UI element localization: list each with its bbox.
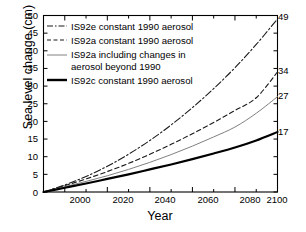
sea-level-change-chart: Sea level change (cm) 50 45 40 35 30 25 …: [0, 0, 306, 232]
legend-line-swatches: [47, 26, 67, 80]
curve-1: [44, 72, 278, 192]
axes-frame: [44, 16, 278, 193]
axis-ticks: [44, 16, 278, 193]
plot-area: [0, 0, 306, 232]
data-curves: [44, 19, 278, 192]
